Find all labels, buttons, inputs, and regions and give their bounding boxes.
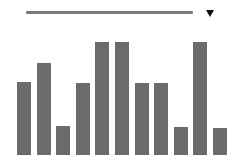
bar-11 [213,128,227,155]
bar-5 [95,42,109,155]
bar-3 [56,126,70,155]
bar-1 [17,82,31,155]
bar-8 [154,83,168,155]
bar-6 [115,42,129,155]
bar-chart [0,0,240,168]
bar-9 [174,127,188,155]
bar-7 [135,83,149,155]
bar-10 [193,42,207,155]
bar-4 [76,83,90,155]
bar-2 [37,63,51,155]
